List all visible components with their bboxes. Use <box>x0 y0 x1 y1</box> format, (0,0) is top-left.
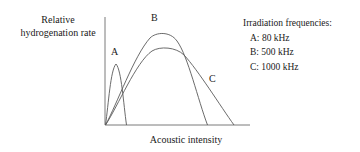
legend-item-b: B: 500 kHz <box>243 45 358 60</box>
legend-title: Irradiation frequencies: <box>243 16 358 31</box>
curve-label-a: A <box>111 47 118 57</box>
legend-item-c: C: 1000 kHz <box>243 60 358 75</box>
curve-a <box>106 64 127 125</box>
y-axis-label-line1: Relative <box>41 14 74 25</box>
y-axis-label-line2: hydrogenation rate <box>20 27 95 38</box>
figure-hydrogenation-rate-vs-acoustic-intensity: Relative hydrogenation rate A B C Acoust… <box>0 0 360 152</box>
x-axis-label: Acoustic intensity <box>118 134 254 146</box>
legend: Irradiation frequencies: A: 80 kHz B: 50… <box>243 16 358 74</box>
curve-label-b: B <box>151 13 158 23</box>
curve-label-c: C <box>209 74 216 84</box>
y-axis-label: Relative hydrogenation rate <box>12 14 104 39</box>
legend-item-a: A: 80 kHz <box>243 31 358 46</box>
